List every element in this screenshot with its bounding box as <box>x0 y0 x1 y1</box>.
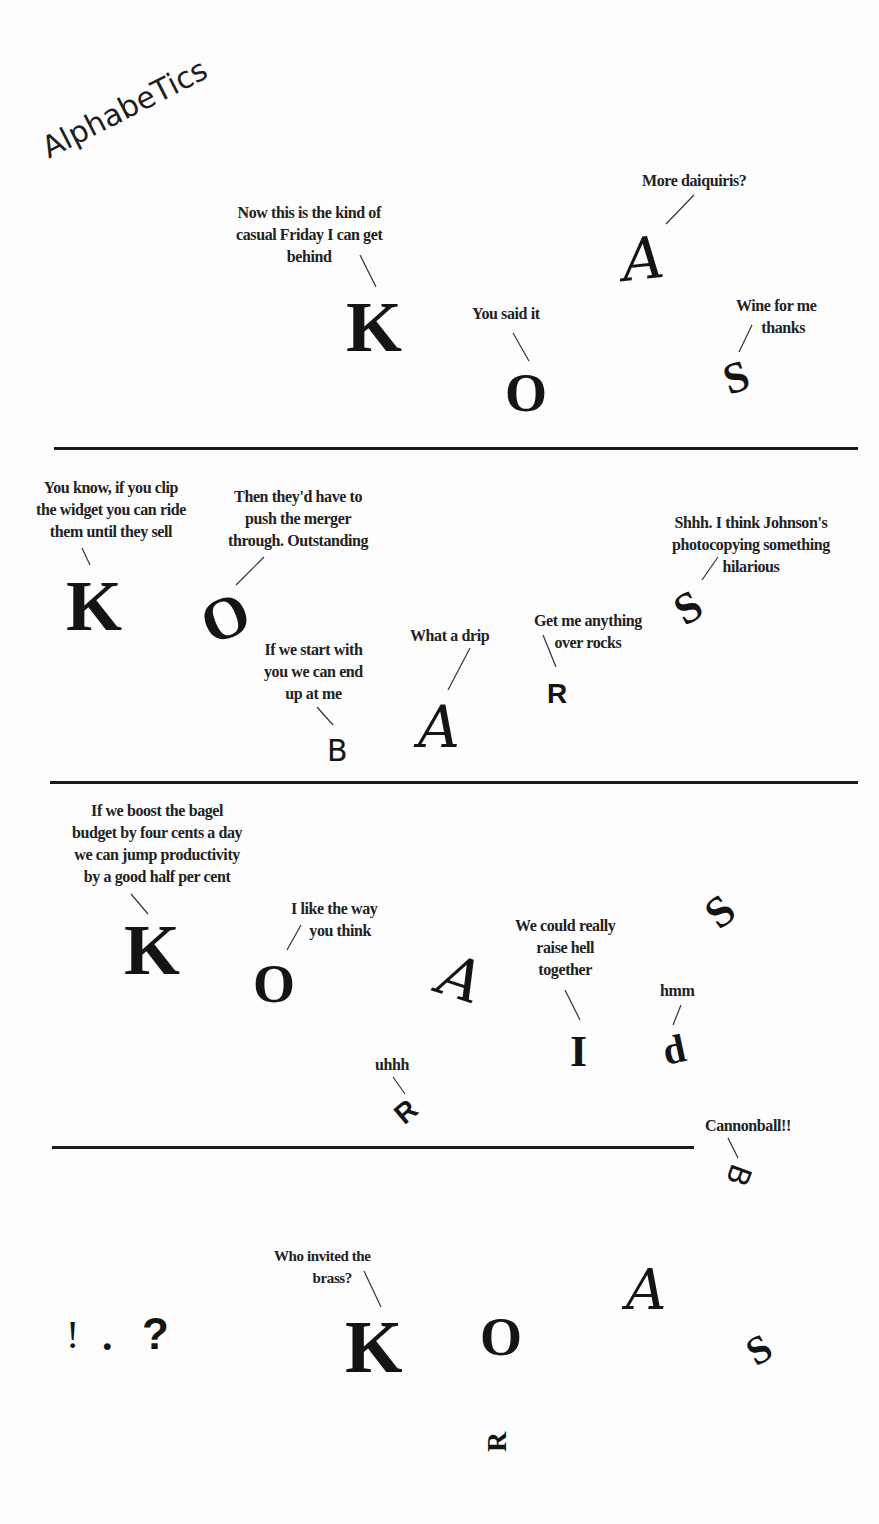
panel-divider-3 <box>52 1146 694 1149</box>
letter-s-panel1: S <box>718 353 755 402</box>
letter-s-panel2: S <box>667 583 710 633</box>
comic-page: AlphabeTics Now this is the kind of casu… <box>0 0 879 1524</box>
letter-k-panel3: K <box>124 914 180 986</box>
caption-b-panel3: Cannonball!! <box>705 1115 791 1137</box>
letter-o-panel3: O <box>253 957 295 1011</box>
caption-a-panel1: More daiquiris? <box>642 170 746 192</box>
punctuation-exclamation: ! <box>66 1315 79 1355</box>
punctuation-question: ? <box>142 1312 169 1356</box>
caption-r-panel2: Get me anything over rocks <box>534 610 642 654</box>
panel-divider-2 <box>50 781 858 784</box>
letter-s-panel3: S <box>697 887 743 937</box>
letter-s-panel4: S <box>739 1327 778 1373</box>
letter-a-panel2: A <box>418 698 460 756</box>
caption-o-panel2: Then they'd have to push the merger thro… <box>228 486 368 552</box>
caption-d-panel3: hmm <box>660 980 694 1002</box>
letter-k-panel1: K <box>346 291 402 363</box>
letter-a-panel3: A <box>432 945 490 1013</box>
letter-b-panel3: B <box>721 1160 756 1190</box>
letter-a-panel4: A <box>626 1262 666 1318</box>
letter-r-panel3: R <box>389 1095 422 1129</box>
letter-r-panel4: R <box>483 1432 511 1452</box>
caption-k-panel4: Who invited the brass? <box>274 1245 371 1289</box>
letter-o-panel4: O <box>480 1310 522 1364</box>
caption-b-panel2: If we start with you we can end up at me <box>264 639 363 705</box>
caption-k-panel1: Now this is the kind of casual Friday I … <box>236 202 382 268</box>
letter-o-panel1: O <box>505 366 547 420</box>
panel-divider-1 <box>54 447 858 450</box>
letter-b-panel2: B <box>327 736 348 766</box>
caption-a-panel2: What a drip <box>410 625 489 647</box>
letter-r-panel2: R <box>547 680 567 708</box>
caption-i-panel3: We could really raise hell together <box>515 915 615 981</box>
caption-k-panel2: You know, if you clip the widget you can… <box>36 477 186 543</box>
letter-i-panel3: I <box>570 1030 587 1074</box>
caption-k-panel3: If we boost the bagel budget by four cen… <box>72 800 242 888</box>
letter-a-panel1: A <box>619 228 667 290</box>
caption-o-panel3: I like the way you think <box>291 898 377 942</box>
letter-d-panel3: d <box>659 1028 689 1072</box>
caption-s-panel2: Shhh. I think Johnson's photocopying som… <box>672 512 830 578</box>
caption-s-panel1: Wine for me thanks <box>736 295 816 339</box>
punctuation-period: . <box>102 1315 113 1357</box>
caption-r-panel3: uhhh <box>375 1054 409 1076</box>
caption-o-panel1: You said it <box>472 303 540 325</box>
letter-k-panel2: K <box>66 570 122 642</box>
letter-o-panel2: O <box>192 581 258 654</box>
comic-title: AlphabeTics <box>36 52 213 165</box>
speech-pointer-lines <box>0 0 879 1524</box>
letter-k-panel4: K <box>345 1310 403 1384</box>
